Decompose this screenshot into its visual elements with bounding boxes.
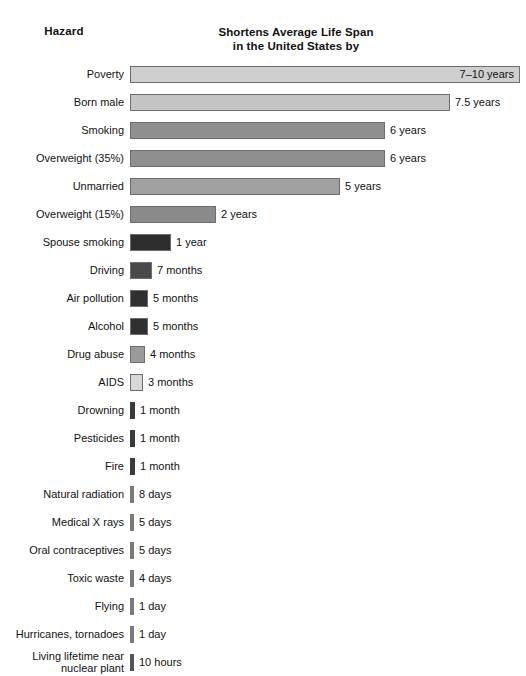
- bar-category-label: Unmarried: [6, 172, 130, 200]
- bar: [130, 458, 135, 475]
- bar-value-label: 4 days: [139, 572, 171, 584]
- bar-track: 6 years: [130, 116, 526, 144]
- chart-title-line-1: Shortens Average Life Span: [218, 26, 373, 38]
- bar: [130, 598, 134, 615]
- bar-track: 10 hours: [130, 648, 526, 676]
- bar-row: Driving7 months: [0, 256, 526, 284]
- bar-category-label: Living lifetime near nuclear plant: [6, 648, 130, 676]
- bar: [130, 374, 143, 391]
- bar-value-label: 6 years: [390, 152, 426, 164]
- bar-track: 2 years: [130, 200, 526, 228]
- bar-rows: Poverty7–10 yearsBorn male7.5 yearsSmoki…: [0, 60, 526, 676]
- bar-value-label: 1 day: [139, 628, 166, 640]
- bar-track: 1 month: [130, 396, 526, 424]
- chart-title: Shortens Average Life Span in the United…: [130, 25, 462, 53]
- bar-row: Hurricanes, tornadoes1 day: [0, 620, 526, 648]
- bar-row: Living lifetime near nuclear plant10 hou…: [0, 648, 526, 676]
- bar-value-label: 1 month: [140, 460, 180, 472]
- bar-row: Overweight (15%)2 years: [0, 200, 526, 228]
- bar-row: Flying1 day: [0, 592, 526, 620]
- bar-category-label: Pesticides: [6, 424, 130, 452]
- bar-row: Overweight (35%)6 years: [0, 144, 526, 172]
- bar-category-label: Overweight (15%): [6, 200, 130, 228]
- bar-row: Spouse smoking1 year: [0, 228, 526, 256]
- bar-category-label: Drowning: [6, 396, 130, 424]
- bar: [130, 514, 134, 531]
- bar-value-label: 6 years: [390, 124, 426, 136]
- bar: [130, 626, 134, 643]
- bar-row: Alcohol5 months: [0, 312, 526, 340]
- bar-row: Smoking6 years: [0, 116, 526, 144]
- bar-track: 5 days: [130, 508, 526, 536]
- bar-track: 1 year: [130, 228, 526, 256]
- bar-row: Drug abuse4 months: [0, 340, 526, 368]
- bar-value-label: 8 days: [139, 488, 171, 500]
- bar-category-label: Air pollution: [6, 284, 130, 312]
- bar-value-label: 10 hours: [139, 656, 182, 668]
- bar-track: 1 month: [130, 424, 526, 452]
- bar-track: 1 month: [130, 452, 526, 480]
- bar-category-label: Spouse smoking: [6, 228, 130, 256]
- bar: 7–10 years: [130, 66, 520, 83]
- bar: [130, 430, 135, 447]
- bar: [130, 206, 216, 223]
- bar-value-label: 7.5 years: [455, 96, 500, 108]
- bar-value-label: 5 years: [345, 180, 381, 192]
- bar-value-label: 4 months: [150, 348, 195, 360]
- bar-row: AIDS3 months: [0, 368, 526, 396]
- bar-value-label: 1 day: [139, 600, 166, 612]
- bar: [130, 486, 134, 503]
- bar-row: Unmarried5 years: [0, 172, 526, 200]
- bar-track: 8 days: [130, 480, 526, 508]
- bar-row: Medical X rays5 days: [0, 508, 526, 536]
- bar-track: 1 day: [130, 620, 526, 648]
- bar-row: Air pollution5 months: [0, 284, 526, 312]
- bar-category-label: Medical X rays: [6, 508, 130, 536]
- bar: [130, 402, 135, 419]
- bar-category-label: Driving: [6, 256, 130, 284]
- bar-category-label: Fire: [6, 452, 130, 480]
- bar-row: Born male7.5 years: [0, 88, 526, 116]
- bar-track: 5 months: [130, 312, 526, 340]
- bar-value-label: 5 days: [139, 516, 171, 528]
- bar: [130, 542, 134, 559]
- bar-category-label: Flying: [6, 592, 130, 620]
- bar-category-label: Oral contraceptives: [6, 536, 130, 564]
- bar-value-label: 5 days: [139, 544, 171, 556]
- bar-category-label: Born male: [6, 88, 130, 116]
- bar-row: Fire1 month: [0, 452, 526, 480]
- bar-category-label: Alcohol: [6, 312, 130, 340]
- bar-category-label: Smoking: [6, 116, 130, 144]
- bar: [130, 570, 134, 587]
- bar-track: 4 months: [130, 340, 526, 368]
- bar: [130, 234, 171, 251]
- bar-value-label: 2 years: [221, 208, 257, 220]
- bar-track: 1 day: [130, 592, 526, 620]
- bar-track: 6 years: [130, 144, 526, 172]
- bar-track: 5 years: [130, 172, 526, 200]
- bar-category-label: Natural radiation: [6, 480, 130, 508]
- bar-row: Drowning1 month: [0, 396, 526, 424]
- bar-track: 4 days: [130, 564, 526, 592]
- bar-value-label: 7 months: [157, 264, 202, 276]
- bar-category-label: Drug abuse: [6, 340, 130, 368]
- bar: [130, 654, 134, 671]
- bar: [130, 346, 145, 363]
- bar-category-label: Overweight (35%): [6, 144, 130, 172]
- chart-title-line-2: in the United States by: [130, 39, 462, 53]
- bar-track: 3 months: [130, 368, 526, 396]
- bar-category-label: Hurricanes, tornadoes: [6, 620, 130, 648]
- bar-value-label: 5 months: [153, 320, 198, 332]
- bar: [130, 122, 385, 139]
- bar-category-label: AIDS: [6, 368, 130, 396]
- column-header-hazard: Hazard: [0, 25, 128, 37]
- bar-row: Pesticides1 month: [0, 424, 526, 452]
- bar: [130, 150, 385, 167]
- bar-value-label: 5 months: [153, 292, 198, 304]
- bar: [130, 94, 450, 111]
- bar-track: 7.5 years: [130, 88, 526, 116]
- bar: [130, 178, 340, 195]
- bar-track: 5 months: [130, 284, 526, 312]
- bar: [130, 290, 148, 307]
